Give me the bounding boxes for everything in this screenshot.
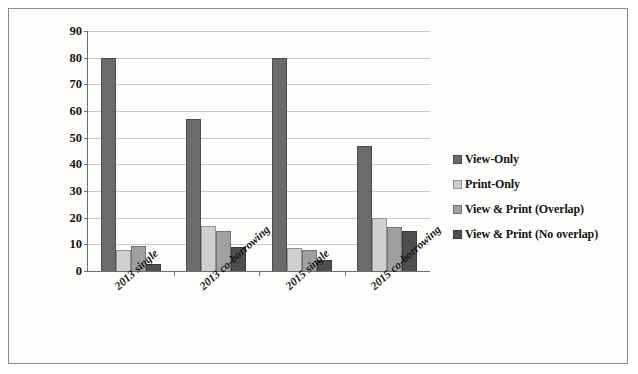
bar — [272, 58, 287, 271]
y-axis-tick-label: 60 — [70, 103, 83, 118]
y-axis-tick-label: 80 — [70, 50, 83, 65]
x-axis-tick-mark — [259, 271, 260, 276]
y-axis-tick-label: 30 — [70, 183, 83, 198]
y-axis-tick-label: 0 — [76, 264, 82, 279]
bar — [372, 218, 387, 271]
y-axis-tick-label: 40 — [70, 157, 83, 172]
legend-item: View & Print (Overlap) — [453, 197, 638, 222]
legend-item: View-Only — [453, 147, 638, 172]
legend-label: View-Only — [465, 152, 519, 167]
legend-swatch-icon — [453, 180, 462, 189]
x-axis-tick-mark — [345, 271, 346, 276]
bar-group — [174, 31, 260, 271]
legend-label: View & Print (Overlap) — [465, 202, 584, 217]
y-axis-title-container: Percentage of activity by loan type — [31, 23, 57, 291]
x-axis-category-labels: 2013 single2013 co-borrowing2015 single2… — [87, 279, 429, 369]
x-axis-tick-mark — [174, 271, 175, 276]
bar-group — [259, 31, 345, 271]
y-axis-title: Percentage of activity by loan type — [45, 0, 71, 35]
bar-group — [88, 31, 174, 271]
legend-item: Print-Only — [453, 172, 638, 197]
y-axis-tick-mark — [84, 271, 88, 272]
y-axis-tick-label: 50 — [70, 130, 83, 145]
chart-legend: View-OnlyPrint-OnlyView & Print (Overlap… — [453, 147, 638, 247]
y-axis-tick-label: 10 — [70, 237, 83, 252]
legend-label: Print-Only — [465, 177, 520, 192]
bar — [101, 58, 116, 271]
legend-swatch-icon — [453, 230, 462, 239]
y-axis-tick-label: 20 — [70, 210, 83, 225]
bar — [357, 146, 372, 271]
legend-item: View & Print (No overlap) — [453, 222, 638, 247]
y-axis-tick-label: 70 — [70, 77, 83, 92]
y-axis-tick-label: 90 — [70, 24, 83, 39]
figure-frame: Percentage of activity by loan type 0102… — [8, 8, 628, 364]
bar — [186, 119, 201, 271]
bar — [201, 226, 216, 271]
bar-group — [345, 31, 431, 271]
legend-label: View & Print (No overlap) — [465, 227, 598, 242]
legend-swatch-icon — [453, 205, 462, 214]
legend-swatch-icon — [453, 155, 462, 164]
